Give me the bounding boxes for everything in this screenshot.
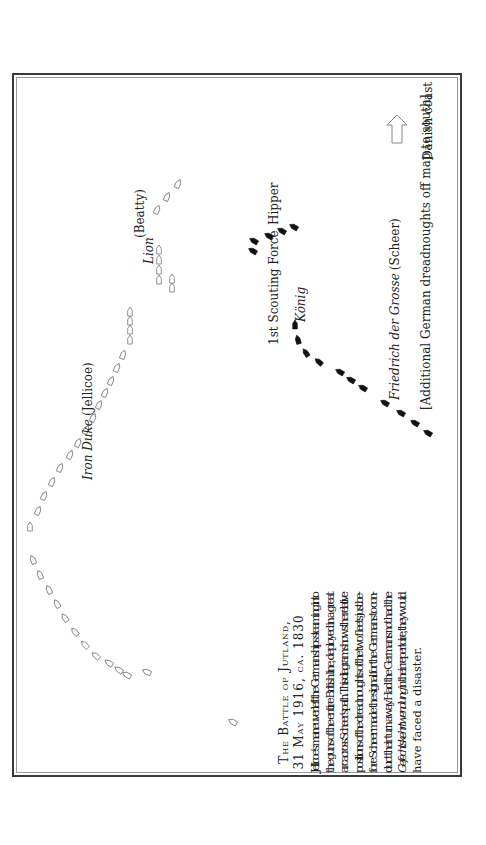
konig-label: König: [294, 287, 308, 323]
caption-line: Gefechtskehrtwendung in their repertoire…: [395, 590, 409, 773]
german-ship: [396, 409, 406, 417]
caption-subtitle: 31 May 1916, ca. 1830: [292, 614, 306, 769]
british-ship: [40, 490, 48, 500]
battle-diagram: Iron Duke(Jellicoe) Lion (Beatty) 1st Sc…: [0, 0, 486, 845]
british-ship: [128, 316, 133, 325]
british-ship: [170, 283, 175, 292]
caption-line: positions of the dreadnoughts of the two…: [352, 591, 366, 773]
british-ship: [70, 627, 79, 637]
scouting-force-label: 1st Scouting Force: [267, 230, 281, 345]
british-ship: [119, 350, 126, 360]
british-ship: [36, 569, 44, 579]
lion-label: Lion: [142, 237, 156, 265]
british-ship: [45, 584, 53, 594]
british-ship: [56, 462, 64, 472]
british-ship: [113, 362, 121, 372]
danish-coast-label: Danish coast: [421, 82, 435, 160]
british-fleet: [28, 178, 238, 725]
british-ship: [128, 325, 133, 334]
german-ship: [358, 384, 368, 392]
beatty-label: (Beatty): [133, 189, 147, 238]
british-ship: [48, 476, 56, 486]
british-battlecruiser: [153, 204, 161, 214]
british-ship: [34, 505, 42, 515]
british-ship: [28, 522, 33, 531]
british-ship: [114, 665, 124, 674]
british-battlecruiser: [157, 255, 162, 264]
british-ship: [107, 375, 115, 385]
german-ship: [294, 335, 301, 345]
caption-line: Jellicoe’s maneuver left the German ship…: [308, 591, 322, 774]
caption-line: arc across Scheer’s path. This diagram s…: [337, 591, 351, 773]
british-ship: [95, 399, 103, 409]
british-ship: [29, 554, 37, 564]
direction-arrow-icon: [387, 115, 407, 143]
british-battlecruiser: [174, 178, 182, 188]
friedrich-label: Friedrich der Grosse(Scheer): [388, 218, 402, 401]
caption-line: have faced a disaster.: [410, 647, 424, 773]
british-ship: [60, 613, 69, 623]
british-battlecruiser: [157, 245, 162, 254]
british-ship: [141, 668, 151, 676]
caption-line: fore Scheer made the signal for the Germ…: [366, 591, 380, 773]
british-ship: [128, 307, 133, 316]
british-ship: [53, 599, 61, 609]
british-battlecruiser: [163, 191, 171, 201]
british-ship: [104, 658, 114, 667]
hipper-label: Hipper: [267, 182, 281, 225]
british-battlecruiser: [157, 275, 162, 284]
german-battlecruiser: [248, 247, 258, 255]
caption-title: The Battle of Jutland,: [277, 620, 291, 763]
german-ship: [346, 376, 356, 384]
british-ship: [228, 718, 238, 726]
iron-duke-label: Iron Duke(Jellicoe): [81, 362, 95, 481]
german-battlecruiser: [249, 237, 259, 245]
british-ship: [101, 387, 109, 397]
british-ship: [66, 449, 74, 459]
german-battlecruiser: [289, 223, 299, 231]
german-ship: [423, 429, 433, 437]
caption-line: the guns of the entire British line, dep…: [323, 591, 337, 773]
british-ship: [128, 335, 133, 344]
german-ship: [301, 348, 310, 358]
german-ship: [314, 357, 324, 366]
german-ship: [335, 368, 345, 376]
british-ship: [80, 640, 90, 650]
caption-line: duct their turn away. Had the Germans no…: [381, 591, 395, 773]
caption: The Battle of Jutland, 31 May 1916, ca. …: [277, 590, 424, 774]
german-ship: [410, 419, 420, 427]
british-ship: [170, 274, 175, 283]
british-battlecruiser: [157, 265, 162, 274]
british-ship: [91, 651, 101, 660]
